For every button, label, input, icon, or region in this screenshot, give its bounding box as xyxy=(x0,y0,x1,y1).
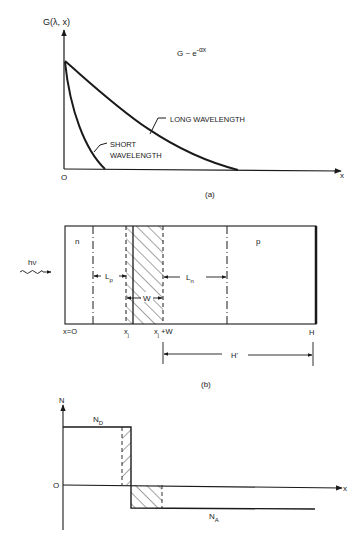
figure: G(λ, x) x O G ~ e-αx LONG WAVELENGTH SHO… xyxy=(0,0,363,541)
donor-charge-hatch xyxy=(122,427,131,485)
p-region-label: p xyxy=(256,237,261,246)
panel-a-generation-plot: G(λ, x) x O G ~ e-αx LONG WAVELENGTH SHO… xyxy=(43,17,344,199)
x-axis-label: x xyxy=(343,484,347,493)
short-leader xyxy=(94,143,107,152)
origin-label: O xyxy=(53,481,59,490)
depletion-hatch-n xyxy=(126,226,133,324)
x-axis xyxy=(63,485,342,488)
lp-label: Lp xyxy=(105,272,113,283)
hprime-label: H' xyxy=(231,351,238,360)
nd-label: ND xyxy=(93,415,104,426)
caption-a: (a) xyxy=(205,190,215,199)
photon-wave-icon xyxy=(20,271,43,274)
x-axis-label: x xyxy=(340,171,344,180)
n-region-label: n xyxy=(75,237,79,246)
acceptor-charge-hatch xyxy=(131,485,162,508)
long-wavelength-label: LONG WAVELENGTH xyxy=(170,115,245,124)
caption-b: (b) xyxy=(201,380,211,389)
photon-label: hν xyxy=(28,258,36,267)
short-wavelength-label-2: WAVELENGTH xyxy=(110,151,162,160)
y-axis-label: G(λ, x) xyxy=(43,17,70,27)
xjw-label: xj +W xyxy=(154,327,173,338)
panel-c-doping-profile: N x O ND NA xyxy=(53,396,347,530)
n-axis-label: N xyxy=(59,396,64,405)
origin-label: O xyxy=(61,173,67,182)
doping-profile-line xyxy=(63,427,315,509)
formula: G ~ e-αx xyxy=(177,46,207,58)
na-label: NA xyxy=(209,512,219,523)
device-outline xyxy=(65,226,316,324)
panel-b-device-cross-section: n p hν Lp Ln W x=O xj xj +W H H' (b) xyxy=(20,226,316,389)
ln-label: Ln xyxy=(186,273,194,284)
short-wavelength-label-1: SHORT xyxy=(110,140,137,149)
w-label: W xyxy=(143,294,151,303)
xj-label: xj xyxy=(124,327,129,338)
x-axis xyxy=(64,169,341,171)
depletion-hatch-p xyxy=(133,226,163,324)
x0-label: x=O xyxy=(63,327,77,336)
h-label: H xyxy=(309,328,314,337)
